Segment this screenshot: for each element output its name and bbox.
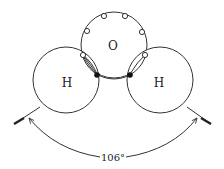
angle-label: 106° bbox=[101, 152, 125, 163]
hydrogen-atom-left: H bbox=[33, 47, 99, 113]
water-molecule-diagram: O H H 106° bbox=[0, 0, 224, 169]
electron-icon bbox=[139, 29, 144, 34]
electron-icon bbox=[84, 28, 89, 33]
hydrogen-electron-right-icon bbox=[127, 72, 133, 78]
hydrogen-atom-right: H bbox=[127, 47, 193, 113]
electron-icon bbox=[80, 52, 85, 57]
electron-icon bbox=[122, 13, 127, 18]
oxygen-label: O bbox=[108, 39, 118, 53]
hydrogen-electron-left-icon bbox=[94, 72, 100, 78]
electron-icon bbox=[101, 13, 106, 18]
hydrogen-right-label: H bbox=[154, 76, 164, 90]
angle-arc-left bbox=[29, 118, 100, 157]
hydrogen-left-label: H bbox=[62, 76, 72, 90]
angle-arc-right bbox=[126, 118, 197, 157]
electron-icon bbox=[142, 52, 147, 57]
